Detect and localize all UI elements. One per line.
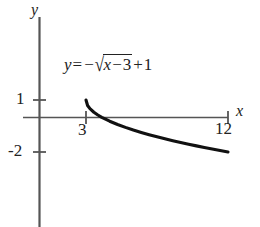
- radicand-variable: x: [104, 55, 112, 74]
- coordinate-plot: [0, 0, 260, 227]
- equation-constant: 1: [144, 55, 153, 74]
- y-axis-label: y: [31, 2, 38, 18]
- radicand-constant: 3: [123, 55, 132, 74]
- function-curve: [86, 100, 228, 152]
- graph-figure: y=−√x−3+1 y x 1 -2 3 12: [0, 0, 260, 227]
- equation-annotation: y=−√x−3+1: [64, 54, 152, 73]
- equation-equals: =: [72, 55, 84, 74]
- radical-sign-icon: √: [95, 54, 104, 74]
- radicand: x−3: [103, 54, 133, 73]
- equation-minus-sign: −: [83, 55, 95, 74]
- radical-expression: √x−3: [95, 54, 132, 73]
- x-axis-label: x: [236, 103, 243, 119]
- x-tick-label-12: 12: [215, 120, 232, 137]
- y-tick-label-neg2: -2: [8, 142, 22, 159]
- y-tick-label-1: 1: [16, 90, 25, 107]
- x-tick-label-3: 3: [78, 121, 87, 138]
- equation-lhs: y: [64, 55, 72, 74]
- radicand-minus: −: [111, 55, 123, 74]
- equation-plus-sign: +: [132, 55, 144, 74]
